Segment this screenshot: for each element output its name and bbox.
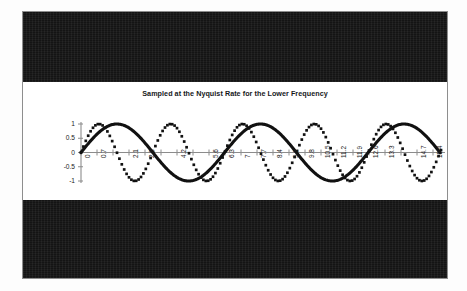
sample-marker (233, 129, 236, 132)
sample-marker (310, 124, 313, 127)
x-axis-label: 8.4 (276, 149, 283, 158)
sample-marker (305, 129, 308, 132)
sample-marker (346, 179, 349, 182)
sample-marker (284, 175, 287, 178)
sample-marker (413, 174, 416, 177)
sample-marker (106, 130, 109, 133)
chart: Sampled at the Nyquist Rate for the Lowe… (23, 82, 447, 200)
sample-marker (200, 176, 203, 179)
x-axis-label: 7.7 (260, 149, 267, 158)
plot-area: 10.50-0.5-100.72.12.84.25.66.377.78.49.1… (23, 82, 447, 200)
sample-marker (94, 124, 97, 127)
sample-marker (84, 140, 87, 143)
sample-marker (144, 168, 147, 171)
sample-marker (92, 126, 95, 129)
y-axis-label: 0 (53, 149, 75, 156)
sample-marker (360, 166, 363, 169)
sample-marker (87, 134, 90, 137)
sample-marker (240, 123, 243, 126)
sample-marker (178, 130, 181, 133)
sample-marker (252, 135, 255, 138)
sample-marker (387, 123, 390, 126)
sample-marker (123, 168, 126, 171)
sample-marker (382, 123, 385, 126)
x-axis-label: 0 (84, 154, 91, 158)
sample-marker (159, 134, 162, 137)
x-axis-label: 0.7 (100, 149, 107, 158)
sample-marker (272, 176, 275, 179)
sample-marker (207, 179, 210, 182)
dark-scan-frame: Sampled at the Nyquist Rate for the Lowe… (23, 12, 447, 278)
sample-marker (423, 179, 426, 182)
sample-marker (195, 169, 198, 172)
sample-marker (308, 126, 311, 129)
sample-marker (336, 164, 339, 167)
x-axis-label: 14.7 (420, 145, 427, 157)
sample-marker (250, 131, 253, 134)
sample-marker (255, 141, 258, 144)
sample-marker (430, 171, 433, 174)
sample-marker (432, 166, 435, 169)
sample-marker (372, 138, 375, 141)
sample-marker (96, 123, 99, 126)
sample-marker (334, 159, 337, 162)
sample-marker (375, 133, 378, 136)
sample-marker (137, 178, 140, 181)
sample-marker (281, 178, 284, 181)
sample-marker (303, 133, 306, 136)
sample-marker (389, 125, 392, 128)
sample-marker (209, 178, 212, 181)
sample-marker (327, 141, 330, 144)
sample-marker (420, 180, 423, 183)
x-axis-label: 11.9 (356, 146, 363, 158)
sample-marker (142, 172, 145, 175)
sample-marker (317, 125, 320, 128)
sample-marker (286, 171, 289, 174)
sample-marker (332, 153, 335, 156)
sample-marker (380, 126, 383, 129)
x-axis-label: 12.6 (372, 145, 379, 157)
sample-marker (231, 134, 234, 137)
sample-marker (384, 123, 387, 126)
sample-marker (214, 172, 217, 175)
x-axis-label: 9.1 (292, 149, 299, 158)
sample-marker (394, 131, 397, 134)
sample-marker (365, 155, 368, 158)
sample-marker (238, 124, 241, 127)
sample-marker (156, 139, 159, 142)
sample-marker (99, 123, 102, 126)
sample-marker (104, 127, 107, 130)
sample-marker (228, 139, 231, 142)
sample-marker (267, 169, 270, 172)
sample-marker (312, 123, 315, 126)
sample-marker (351, 179, 354, 182)
x-axis-label: 4.2 (180, 149, 187, 158)
sample-marker (118, 157, 121, 160)
sample-marker (344, 177, 347, 180)
sample-marker (130, 178, 133, 181)
scanned-figure-page: Sampled at the Nyquist Rate for the Lowe… (0, 0, 467, 291)
sample-marker (135, 179, 138, 182)
sample-marker (108, 135, 111, 138)
y-axis-label: 1 (53, 120, 75, 127)
sample-marker (356, 175, 359, 178)
sample-marker (368, 149, 371, 152)
sample-marker (116, 151, 119, 154)
sample-marker (320, 127, 323, 130)
sample-marker (204, 180, 207, 183)
sample-marker (164, 126, 167, 129)
sample-marker (132, 180, 135, 183)
sample-marker (245, 124, 248, 127)
sample-marker (192, 163, 195, 166)
sample-marker (392, 128, 395, 131)
sample-marker (188, 152, 191, 155)
sample-marker (82, 145, 85, 148)
sample-marker (224, 150, 227, 153)
x-axis-label: 15.4 (436, 145, 443, 157)
sample-marker (212, 175, 215, 178)
waveform-svg (23, 82, 447, 200)
sample-marker (147, 162, 150, 165)
sample-marker (425, 177, 428, 180)
sample-marker (404, 153, 407, 156)
sample-marker (408, 165, 411, 168)
